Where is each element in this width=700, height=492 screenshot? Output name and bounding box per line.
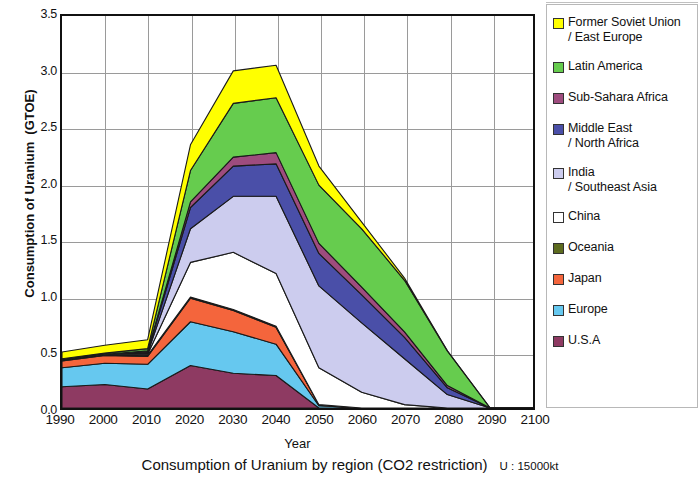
legend-label: Sub-Sahara Africa bbox=[568, 90, 668, 105]
y-axis-unit: (GTOE) bbox=[22, 89, 37, 134]
y-axis-title-text: Consumption of Uranium bbox=[22, 142, 37, 298]
x-axis-title: Year bbox=[60, 436, 535, 451]
legend-label: Oceania bbox=[568, 240, 614, 255]
legend-swatch bbox=[553, 243, 564, 254]
legend-swatch bbox=[553, 212, 564, 223]
legend-label: Japan bbox=[568, 271, 602, 286]
figure-caption: Consumption of Uranium by region (CO2 re… bbox=[0, 456, 700, 473]
legend-label: Europe bbox=[568, 302, 608, 317]
caption-title: Consumption of Uranium by region (CO2 re… bbox=[142, 456, 488, 473]
legend-label: Latin America bbox=[568, 59, 642, 74]
legend-item[interactable]: Europe bbox=[551, 302, 697, 319]
legend-label: Former Soviet Union / East Europe bbox=[568, 15, 681, 45]
legend: Former Soviet Union / East EuropeLatin A… bbox=[546, 4, 698, 408]
chart-container: 0.00.51.01.52.02.53.03.5 Consumption of … bbox=[0, 0, 540, 440]
y-axis-tick-label: 3.5 bbox=[3, 7, 57, 21]
legend-item[interactable]: Middle East / North Africa bbox=[551, 121, 697, 151]
legend-item[interactable]: Latin America bbox=[551, 59, 697, 76]
legend-swatch bbox=[553, 62, 564, 73]
legend-swatch bbox=[553, 124, 564, 135]
legend-swatch bbox=[553, 336, 564, 347]
x-axis-labels: 1990200020102020203020402050206020702080… bbox=[60, 412, 535, 434]
legend-label: Middle East / North Africa bbox=[568, 121, 639, 151]
legend-item[interactable]: Oceania bbox=[551, 240, 697, 257]
legend-item[interactable]: Sub-Sahara Africa bbox=[551, 90, 697, 107]
legend-item[interactable]: India / Southeast Asia bbox=[551, 165, 697, 195]
x-axis-tick-label: 2100 bbox=[508, 412, 562, 427]
legend-swatch bbox=[553, 274, 564, 285]
legend-top-rule bbox=[546, 2, 698, 3]
legend-swatch bbox=[553, 305, 564, 316]
chart-page: 0.00.51.01.52.02.53.03.5 Consumption of … bbox=[0, 0, 700, 492]
plot-area bbox=[60, 14, 535, 410]
y-axis-tick-label: 3.0 bbox=[3, 64, 57, 78]
legend-item[interactable]: Former Soviet Union / East Europe bbox=[551, 15, 697, 45]
y-axis-tick-label: 0.5 bbox=[3, 346, 57, 360]
legend-label: India / Southeast Asia bbox=[568, 165, 657, 195]
legend-swatch bbox=[553, 18, 564, 29]
legend-item[interactable]: Japan bbox=[551, 271, 697, 288]
legend-swatch bbox=[553, 93, 564, 104]
scan-artifact-text bbox=[236, 476, 426, 486]
stacked-area-series bbox=[62, 16, 533, 408]
caption-unit-note: U : 15000kt bbox=[500, 460, 559, 472]
legend-item[interactable]: China bbox=[551, 209, 697, 226]
legend-label: U.S.A bbox=[568, 333, 600, 348]
y-axis-title: Consumption of Uranium(GTOE) bbox=[22, 79, 37, 309]
legend-label: China bbox=[568, 209, 600, 224]
legend-swatch bbox=[553, 168, 564, 179]
legend-item[interactable]: U.S.A bbox=[551, 333, 697, 350]
